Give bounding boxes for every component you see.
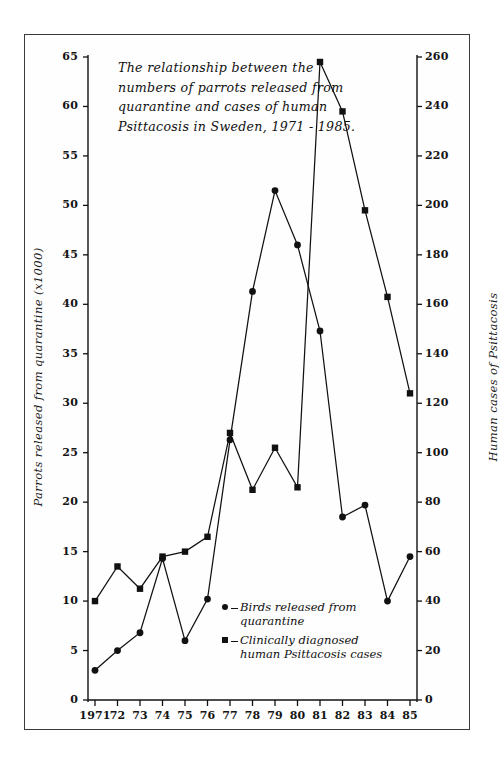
data-point-birds — [204, 596, 211, 603]
data-point-cases — [137, 586, 143, 592]
data-point-cases — [339, 108, 345, 114]
data-point-cases — [182, 548, 188, 554]
y-tick-label-right: 120 — [425, 396, 465, 409]
y-tick-label-left: 20 — [44, 495, 78, 508]
data-point-birds — [362, 502, 369, 509]
legend-item-birds: Birds released from quarantine — [222, 600, 382, 628]
data-point-cases — [317, 59, 323, 65]
series-line-cases — [95, 62, 410, 601]
data-point-birds — [92, 667, 99, 674]
data-point-cases — [92, 598, 98, 604]
circle-marker-icon — [222, 600, 240, 610]
data-point-birds — [272, 187, 279, 194]
y-tick-label-right: 240 — [425, 99, 465, 112]
data-point-birds — [182, 637, 189, 644]
y-tick-label-right: 180 — [425, 248, 465, 261]
y-tick-label-right: 260 — [425, 50, 465, 63]
y-tick-label-left: 65 — [44, 50, 78, 63]
y-tick-label-right: 220 — [425, 149, 465, 162]
data-point-birds — [294, 242, 301, 249]
chart-legend: Birds released from quarantine Clinicall… — [222, 600, 382, 666]
y-tick-label-right: 140 — [425, 347, 465, 360]
data-point-cases — [249, 487, 255, 493]
data-point-birds — [137, 629, 144, 636]
legend-label-cases: Clinically diagnosed human Psittacosis c… — [240, 633, 382, 661]
data-point-cases — [227, 430, 233, 436]
x-tick-label: 85 — [393, 709, 427, 722]
y-tick-label-left: 50 — [44, 198, 78, 211]
y-tick-label-right: 100 — [425, 446, 465, 459]
data-point-cases — [159, 553, 165, 559]
y-tick-label-right: 20 — [425, 644, 465, 657]
data-point-cases — [384, 294, 390, 300]
y-tick-label-right: 160 — [425, 297, 465, 310]
data-point-cases — [204, 534, 210, 540]
y-tick-label-left: 35 — [44, 347, 78, 360]
data-point-cases — [114, 563, 120, 569]
data-point-cases — [272, 445, 278, 451]
legend-item-cases: Clinically diagnosed human Psittacosis c… — [222, 633, 382, 661]
y-tick-label-left: 40 — [44, 297, 78, 310]
data-point-birds — [249, 288, 256, 295]
data-point-cases — [294, 484, 300, 490]
y-tick-label-left: 60 — [44, 99, 78, 112]
y-tick-label-left: 30 — [44, 396, 78, 409]
data-point-cases — [362, 207, 368, 213]
y-tick-label-left: 15 — [44, 545, 78, 558]
y-tick-label-right: 200 — [425, 198, 465, 211]
square-marker-icon — [222, 633, 240, 643]
data-point-birds — [114, 647, 121, 654]
y-tick-label-left: 5 — [44, 644, 78, 657]
legend-label-birds: Birds released from quarantine — [240, 600, 356, 628]
y-tick-label-right: 80 — [425, 495, 465, 508]
data-point-cases — [407, 390, 413, 396]
data-point-birds — [317, 328, 324, 335]
y-tick-label-left: 10 — [44, 594, 78, 607]
y-tick-label-left: 55 — [44, 149, 78, 162]
y-tick-label-left: 25 — [44, 446, 78, 459]
series-line-birds — [95, 191, 410, 671]
data-point-birds — [339, 514, 346, 521]
data-point-birds — [384, 598, 391, 605]
y-tick-label-left: 45 — [44, 248, 78, 261]
y-tick-label-right: 0 — [425, 693, 465, 706]
y-tick-label-right: 60 — [425, 545, 465, 558]
data-point-birds — [407, 553, 414, 560]
y-tick-label-right: 40 — [425, 594, 465, 607]
y-tick-label-left: 0 — [44, 693, 78, 706]
